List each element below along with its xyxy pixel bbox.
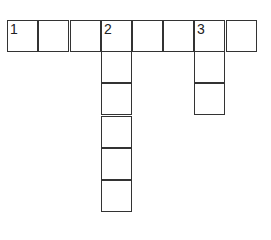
- crossword-cell[interactable]: [194, 51, 225, 83]
- clue-number: 1: [10, 21, 18, 37]
- crossword-cell[interactable]: [226, 20, 257, 52]
- crossword-cell[interactable]: 2: [101, 20, 132, 52]
- crossword-cell[interactable]: [101, 116, 132, 148]
- crossword-cell[interactable]: [101, 148, 132, 180]
- crossword-cell[interactable]: [194, 83, 225, 115]
- crossword-cell[interactable]: [163, 20, 194, 52]
- clue-number: 2: [104, 21, 112, 37]
- crossword-cell[interactable]: [101, 51, 132, 83]
- crossword-cell[interactable]: 3: [194, 20, 225, 52]
- crossword-cell[interactable]: [101, 180, 132, 212]
- crossword-cell[interactable]: 1: [7, 20, 38, 52]
- crossword-cell[interactable]: [38, 20, 69, 52]
- crossword-cell[interactable]: [132, 20, 163, 52]
- clue-number: 3: [197, 21, 205, 37]
- crossword-cell[interactable]: [101, 83, 132, 115]
- crossword-cell[interactable]: [70, 20, 101, 52]
